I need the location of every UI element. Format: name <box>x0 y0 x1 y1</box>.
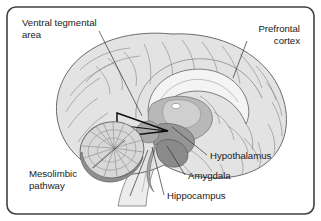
label-prefrontal-cortex-line1: Prefrontal <box>258 23 300 34</box>
label-mesolimbic-pathway-line2: pathway <box>29 180 65 191</box>
label-mesolimbic-pathway-line1: Mesolimbic <box>29 168 77 179</box>
label-hippocampus: Hippocampus <box>167 190 226 201</box>
label-ventral-tegmental-area-line2: area <box>22 29 42 40</box>
label-prefrontal-cortex-line2: cortex <box>274 35 300 46</box>
label-hypothalamus: Hypothalamus <box>210 150 272 161</box>
diagram-canvas: Ventral tegmental area Prefrontal cortex… <box>0 0 321 221</box>
label-amygdala: Amygdala <box>188 170 231 181</box>
ventricle-spot <box>172 103 180 108</box>
label-ventral-tegmental-area-line1: Ventral tegmental <box>22 17 97 28</box>
brain-diagram-figure: Ventral tegmental area Prefrontal cortex… <box>0 0 321 221</box>
